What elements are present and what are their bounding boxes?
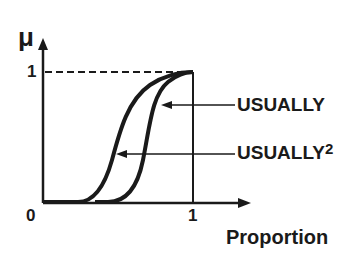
y-tick-one: 1 xyxy=(27,63,36,81)
usually-label: USUALLY xyxy=(237,94,325,116)
y-axis-arrowhead xyxy=(38,38,48,50)
x-axis-arrowhead xyxy=(238,198,251,208)
usually-squared-pointer-arrowhead xyxy=(116,150,127,158)
usually-squared-exponent: 2 xyxy=(325,140,333,157)
usually-squared-label: USUALLY2 xyxy=(237,142,333,164)
usually-pointer-arrowhead xyxy=(161,101,172,109)
usually-squared-curve xyxy=(43,72,193,202)
usually-squared-label-base: USUALLY xyxy=(237,142,325,163)
origin-tick-zero: 0 xyxy=(26,207,35,225)
x-tick-one: 1 xyxy=(188,207,197,225)
y-axis-label-mu: μ xyxy=(18,24,34,50)
x-axis-title: Proportion xyxy=(226,226,328,248)
